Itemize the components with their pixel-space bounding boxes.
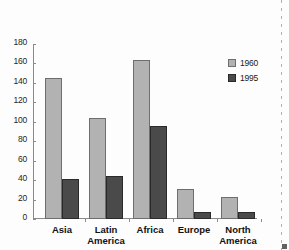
y-axis-tick-label: 180 <box>13 38 27 47</box>
legend-label: 1995 <box>240 74 258 83</box>
bar <box>62 179 79 219</box>
legend-item-1995: 1995 <box>228 73 280 83</box>
legend-item-1960: 1960 <box>228 58 280 68</box>
y-axis-tick-label: 120 <box>13 96 27 105</box>
y-axis-tick-label: 140 <box>13 77 27 86</box>
bar <box>238 212 255 219</box>
bar <box>177 189 194 219</box>
bar <box>106 176 123 219</box>
y-axis-tick-label: 80 <box>18 135 27 144</box>
x-axis-tick-mark <box>85 219 86 222</box>
bar <box>150 126 167 219</box>
bar <box>133 60 150 219</box>
page-edge-mark <box>282 244 287 249</box>
plot-area <box>33 44 250 219</box>
y-axis-tick-label: 20 <box>18 194 27 203</box>
y-axis-tick-label: 160 <box>13 57 27 66</box>
y-axis-tick-label: 60 <box>18 155 27 164</box>
bar <box>194 212 211 219</box>
x-axis-tick-mark <box>261 219 262 222</box>
y-axis-tick-label: 100 <box>13 116 27 125</box>
page-edge-dashed-rule <box>281 0 282 250</box>
legend-label: 1960 <box>240 59 258 68</box>
y-axis-tick-label: 0 <box>22 213 27 222</box>
bar <box>45 78 62 219</box>
x-axis-tick-mark <box>217 219 218 222</box>
bar-chart-figure: 020406080100120140160180 AsiaLatin Ameri… <box>0 0 289 250</box>
y-axis-tick-mark <box>33 219 36 220</box>
bar <box>89 118 106 219</box>
bar <box>221 197 238 219</box>
x-axis-tick-mark <box>173 219 174 222</box>
legend-swatch-icon <box>228 59 236 67</box>
chart-legend: 19601995 <box>228 58 280 88</box>
y-axis-tick-label: 40 <box>18 174 27 183</box>
x-axis-tick-mark <box>129 219 130 222</box>
legend-swatch-icon <box>228 74 236 82</box>
x-axis-category-label: North America <box>203 224 273 246</box>
